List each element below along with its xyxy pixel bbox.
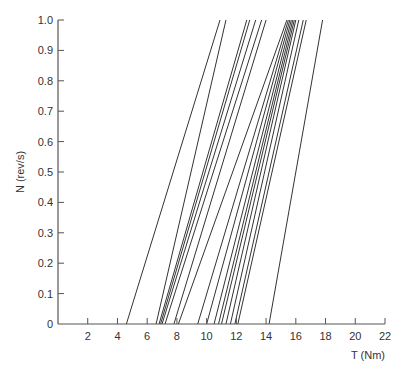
x-tick-label: 12 [230,330,242,342]
y-tick-label: 0.1 [38,288,53,300]
x-tick-label: 10 [201,330,213,342]
y-ticks: 00.10.20.30.40.50.60.70.80.91.0 [38,14,64,330]
x-tick-label: 6 [144,330,150,342]
y-axis-label: N (rev/s) [14,151,26,193]
data-line [162,20,256,324]
x-tick-label: 4 [114,330,120,342]
data-lines [126,20,322,324]
y-tick-label: 0.7 [38,105,53,117]
y-tick-label: 0.9 [38,44,53,56]
data-line [235,20,303,324]
y-tick-label: 0.6 [38,136,53,148]
y-tick-label: 1.0 [38,14,53,26]
y-tick-label: 0.4 [38,196,53,208]
x-tick-label: 22 [379,330,391,342]
y-tick-label: 0 [47,318,53,330]
data-line [156,20,226,324]
y-tick-label: 0.3 [38,227,53,239]
x-tick-label: 8 [174,330,180,342]
data-line [230,20,298,324]
torque-speed-chart: 246810121416182022 00.10.20.30.40.50.60.… [0,0,407,371]
y-tick-label: 0.8 [38,75,53,87]
x-tick-label: 14 [260,330,272,342]
data-line [165,20,262,324]
data-line [126,20,220,324]
data-line [159,20,247,324]
data-line [198,20,289,324]
x-tick-label: 2 [85,330,91,342]
x-axis-label: T (Nm) [351,349,385,361]
y-tick-label: 0.2 [38,257,53,269]
y-tick-label: 0.5 [38,166,53,178]
x-tick-label: 16 [290,330,302,342]
data-line [219,20,293,324]
x-tick-label: 20 [349,330,361,342]
x-tick-label: 18 [319,330,331,342]
